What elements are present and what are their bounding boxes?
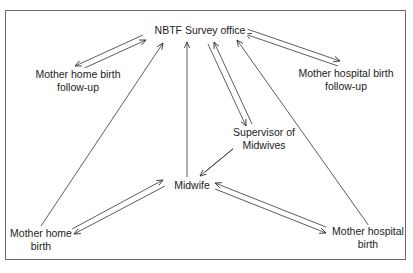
node-hospital-birth: Mother hospital birth xyxy=(332,225,404,251)
node-label-line2: follow-up xyxy=(35,81,120,94)
node-label-line2: Midwives xyxy=(233,139,295,152)
node-label-line1: Supervisor of xyxy=(233,126,295,139)
node-label-line1: Mother home xyxy=(10,227,72,240)
node-label-line1: Mother hospital birth xyxy=(298,67,393,80)
node-home-followup: Mother home birth follow-up xyxy=(35,68,120,94)
arrow-hospital-followup-to-office xyxy=(245,34,338,66)
node-label-line2: birth xyxy=(332,238,404,251)
arrow-supervisor-to-office xyxy=(214,42,252,124)
arrow-office-to-supervisor xyxy=(208,44,246,126)
node-label: Midwife xyxy=(174,179,210,191)
node-label-line1: Mother hospital xyxy=(332,225,404,238)
arrow-home-birth-to-midwife xyxy=(72,180,163,229)
node-supervisor: Supervisor of Midwives xyxy=(233,126,295,152)
node-label: NBTF Survey office xyxy=(155,24,246,36)
node-label-line2: birth xyxy=(10,240,72,253)
arrow-midwife-to-hospital-birth xyxy=(215,189,326,233)
node-label-line2: follow-up xyxy=(298,80,393,93)
arrow-home-followup-to-office xyxy=(78,40,146,71)
node-midwife: Midwife xyxy=(171,179,213,192)
arrow-office-to-home-followup xyxy=(75,35,143,66)
node-hospital-followup: Mother hospital birth follow-up xyxy=(298,67,393,93)
node-label-line1: Mother home birth xyxy=(35,68,120,81)
node-survey-office: NBTF Survey office xyxy=(153,24,248,37)
arrow-midwife-to-home-birth xyxy=(74,186,165,234)
node-home-birth: Mother home birth xyxy=(10,227,72,253)
arrow-hospital-birth-to-midwife xyxy=(215,183,326,227)
arrow-office-to-hospital-followup xyxy=(247,29,340,61)
